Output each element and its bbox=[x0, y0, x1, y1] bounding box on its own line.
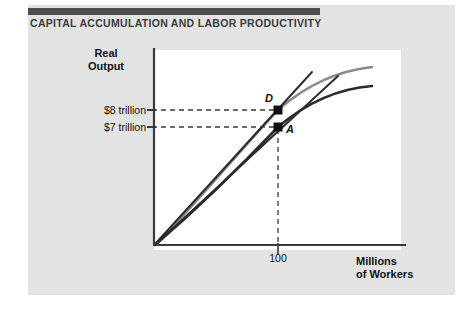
y-tick-label-8-trillion: $8 trillion bbox=[58, 104, 146, 116]
tangent-line-at-A bbox=[156, 76, 338, 244]
y-axis-title: Real Output bbox=[76, 47, 136, 72]
y-axis-title-line2: Output bbox=[88, 60, 124, 72]
x-axis-title: Millions of Workers bbox=[356, 255, 446, 280]
x-axis-title-line2: of Workers bbox=[356, 268, 413, 280]
y-axis-title-line1: Real bbox=[94, 47, 117, 59]
x-tick-label-100: 100 bbox=[258, 252, 298, 264]
point-label-d: D bbox=[265, 92, 273, 104]
y-tick-label-7-trillion: $7 trillion bbox=[58, 121, 146, 133]
curve-production-function-higher-capital bbox=[155, 67, 372, 245]
x-axis-title-line1: Millions bbox=[356, 255, 397, 267]
data-point-D bbox=[274, 106, 283, 115]
tangent-line-at-D bbox=[156, 72, 312, 243]
data-point-A bbox=[274, 123, 283, 132]
point-label-a: A bbox=[286, 123, 294, 135]
